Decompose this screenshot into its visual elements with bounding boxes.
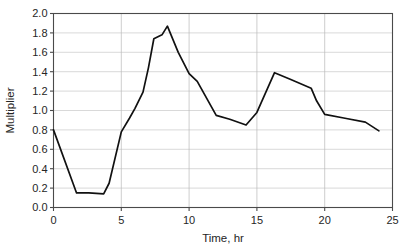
- x-tick-label: 0: [50, 214, 56, 226]
- x-axis-title: Time, hr: [202, 232, 244, 244]
- x-tick-label: 10: [183, 214, 195, 226]
- chart-container: 0.00.20.40.60.81.01.21.41.61.82.0 051015…: [0, 0, 406, 248]
- y-tick-label: 1.8: [32, 27, 47, 39]
- y-tick-label: 0.6: [32, 143, 47, 155]
- x-axis-tick-labels: 0510152025: [50, 214, 398, 226]
- y-tick-label: 1.2: [32, 85, 47, 97]
- x-tick-label: 25: [386, 214, 398, 226]
- y-tick-label: 1.6: [32, 46, 47, 58]
- line-chart: 0.00.20.40.60.81.01.21.41.61.82.0 051015…: [0, 0, 406, 248]
- y-tick-label: 0.4: [32, 163, 47, 175]
- y-axis-title: Multiplier: [4, 87, 16, 133]
- y-tick-label: 0.2: [32, 182, 47, 194]
- x-tick-label: 20: [319, 214, 331, 226]
- y-tick-label: 2.0: [32, 7, 47, 19]
- y-tick-label: 0.8: [32, 124, 47, 136]
- y-tick-label: 0.0: [32, 201, 47, 213]
- x-tick-label: 5: [118, 214, 124, 226]
- y-axis-tick-labels: 0.00.20.40.60.81.01.21.41.61.82.0: [32, 7, 47, 213]
- y-tick-label: 1.4: [32, 66, 47, 78]
- horizontal-gridlines: [54, 33, 393, 188]
- y-tick-label: 1.0: [32, 104, 47, 116]
- x-tick-label: 15: [251, 214, 263, 226]
